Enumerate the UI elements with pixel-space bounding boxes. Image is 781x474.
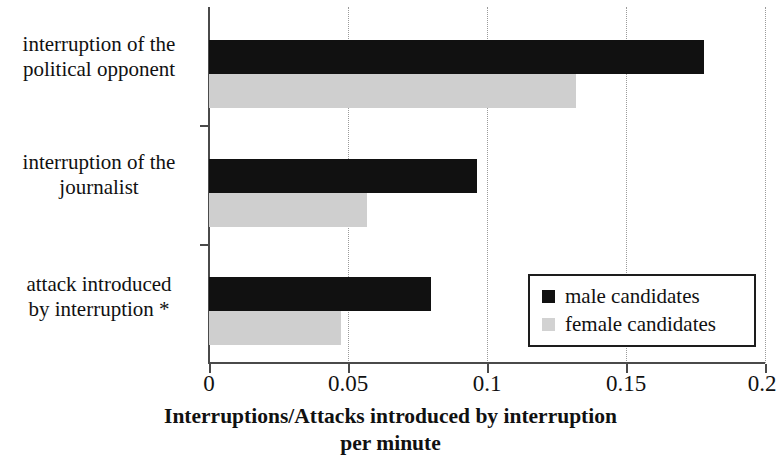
- x-tick-label-0-2: 0.2: [748, 371, 777, 397]
- bar-female-journalist: [209, 193, 367, 227]
- legend: male candidates female candidates: [528, 274, 756, 347]
- legend-label-male: male candidates: [565, 284, 700, 309]
- legend-item-male: male candidates: [542, 282, 744, 310]
- y-axis-tick: [200, 244, 209, 246]
- x-tick-label-0-05: 0.05: [328, 371, 368, 397]
- category-label-line: political opponent: [0, 57, 198, 82]
- legend-swatch-female-icon: [542, 318, 555, 331]
- x-axis-title: Interruptions/Attacks introduced by inte…: [0, 403, 781, 457]
- category-label-attack-introduced: attack introduced by interruption *: [0, 272, 198, 322]
- category-label-line: interruption of the: [0, 32, 198, 57]
- category-label-journalist: interruption of the journalist: [0, 150, 198, 200]
- legend-label-female: female candidates: [565, 312, 716, 337]
- gridline-0-2: [765, 7, 766, 363]
- bar-male-journalist: [209, 159, 477, 193]
- category-label-line: attack introduced: [0, 272, 198, 297]
- category-label-line: interruption of the: [0, 150, 198, 175]
- y-axis-tick: [200, 125, 209, 127]
- bar-male-attack-introduced: [209, 277, 431, 311]
- x-axis-title-line1: Interruptions/Attacks introduced by inte…: [0, 403, 781, 430]
- category-label-line: by interruption *: [0, 297, 198, 322]
- legend-swatch-male-icon: [542, 290, 555, 303]
- x-tick-label-0-15: 0.15: [606, 371, 646, 397]
- category-label-line: journalist: [0, 175, 198, 200]
- category-label-political-opponent: interruption of the political opponent: [0, 32, 198, 82]
- x-axis-title-line2: per minute: [0, 430, 781, 457]
- x-tick-label-0: 0: [203, 371, 215, 397]
- bar-female-attack-introduced: [209, 311, 341, 345]
- legend-item-female: female candidates: [542, 310, 744, 338]
- bar-male-political-opponent: [209, 40, 704, 74]
- chart-figure: interruption of the political opponent i…: [0, 0, 781, 474]
- x-tick-label-0-1: 0.1: [473, 371, 502, 397]
- bar-female-political-opponent: [209, 74, 576, 108]
